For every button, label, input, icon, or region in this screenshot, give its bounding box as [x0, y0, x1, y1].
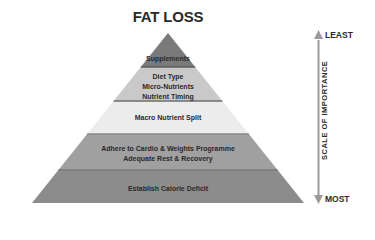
- arrow-down-icon: [314, 195, 323, 204]
- label-line: Micro-Nutrients: [118, 82, 218, 92]
- layer-label-supplements: Supplements: [118, 54, 218, 64]
- scale-top-label: LEAST: [325, 30, 353, 40]
- label-line: Establish Calorie Deficit: [108, 184, 228, 194]
- label-line: Adhere to Cardio & Weights Programme: [88, 144, 248, 154]
- label-line: Supplements: [118, 54, 218, 64]
- label-line: Adequate Rest & Recovery: [88, 154, 248, 164]
- arrow-up-icon: [314, 30, 323, 39]
- layer-label-diet: Diet Type Micro-Nutrients Nutrient Timin…: [118, 72, 218, 102]
- label-line: Nutrient Timing: [118, 92, 218, 102]
- label-line: Diet Type: [118, 72, 218, 82]
- layer-label-deficit: Establish Calorie Deficit: [108, 184, 228, 194]
- layer-label-adherence: Adhere to Cardio & Weights Programme Ade…: [88, 144, 248, 164]
- scale-axis-title: SCALE OF IMPORTANCE: [320, 61, 329, 160]
- scale-bottom-label: MOST: [325, 194, 350, 204]
- layer-label-macro: Macro Nutrient Split: [108, 113, 228, 123]
- label-line: Macro Nutrient Split: [108, 113, 228, 123]
